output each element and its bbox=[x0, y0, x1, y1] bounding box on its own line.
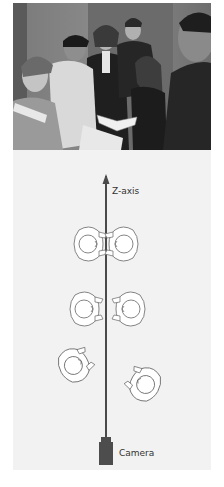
figure-bottom-left bbox=[53, 341, 99, 387]
camera-diagram-panel: Z-axis Camera bbox=[13, 150, 211, 470]
camera-label: Camera bbox=[119, 448, 154, 458]
z-axis-label: Z-axis bbox=[112, 186, 140, 196]
z-axis-arrowhead-icon bbox=[103, 174, 110, 184]
group-photo bbox=[13, 3, 211, 150]
figure-bottom-right bbox=[121, 360, 167, 406]
figure-middle-left bbox=[70, 292, 103, 326]
figure-pair-top-right bbox=[105, 227, 138, 261]
camera-icon bbox=[99, 437, 113, 465]
figure-pair-top-left bbox=[74, 227, 107, 261]
figure-middle-right bbox=[112, 292, 145, 326]
